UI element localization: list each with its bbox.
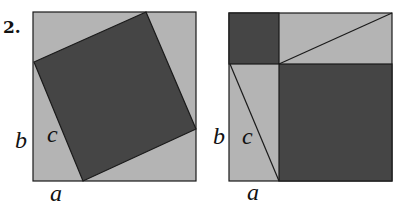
right-diagram: b c a xyxy=(213,13,392,205)
right-label-c: c xyxy=(242,123,253,149)
left-label-c: c xyxy=(47,121,58,147)
left-label-b: b xyxy=(15,127,27,153)
right-label-b: b xyxy=(213,123,225,149)
right-label-a: a xyxy=(247,179,259,205)
pythagorean-proof-figure: 2. b c a b c a xyxy=(0,0,397,208)
right-small-dark-square xyxy=(229,13,279,64)
right-large-dark-square xyxy=(279,64,392,181)
left-label-a: a xyxy=(50,180,62,206)
left-diagram: b c a xyxy=(15,12,196,206)
figure-number: 2. xyxy=(3,17,21,37)
